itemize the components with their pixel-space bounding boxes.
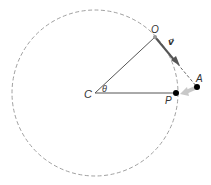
circular-motion-diagram: C θ O v⃗ A P <box>0 0 211 185</box>
point-a <box>194 84 200 90</box>
label-a: A <box>195 73 203 84</box>
label-o: O <box>151 24 159 35</box>
diagram-canvas: C θ O v⃗ A P <box>0 0 211 185</box>
force-arrow-head-icon <box>180 87 189 96</box>
label-theta: θ <box>102 84 107 94</box>
label-p: P <box>165 95 172 106</box>
point-o <box>153 35 157 39</box>
label-c: C <box>84 88 92 100</box>
point-p <box>173 90 179 96</box>
label-velocity: v⃗ <box>168 37 175 47</box>
